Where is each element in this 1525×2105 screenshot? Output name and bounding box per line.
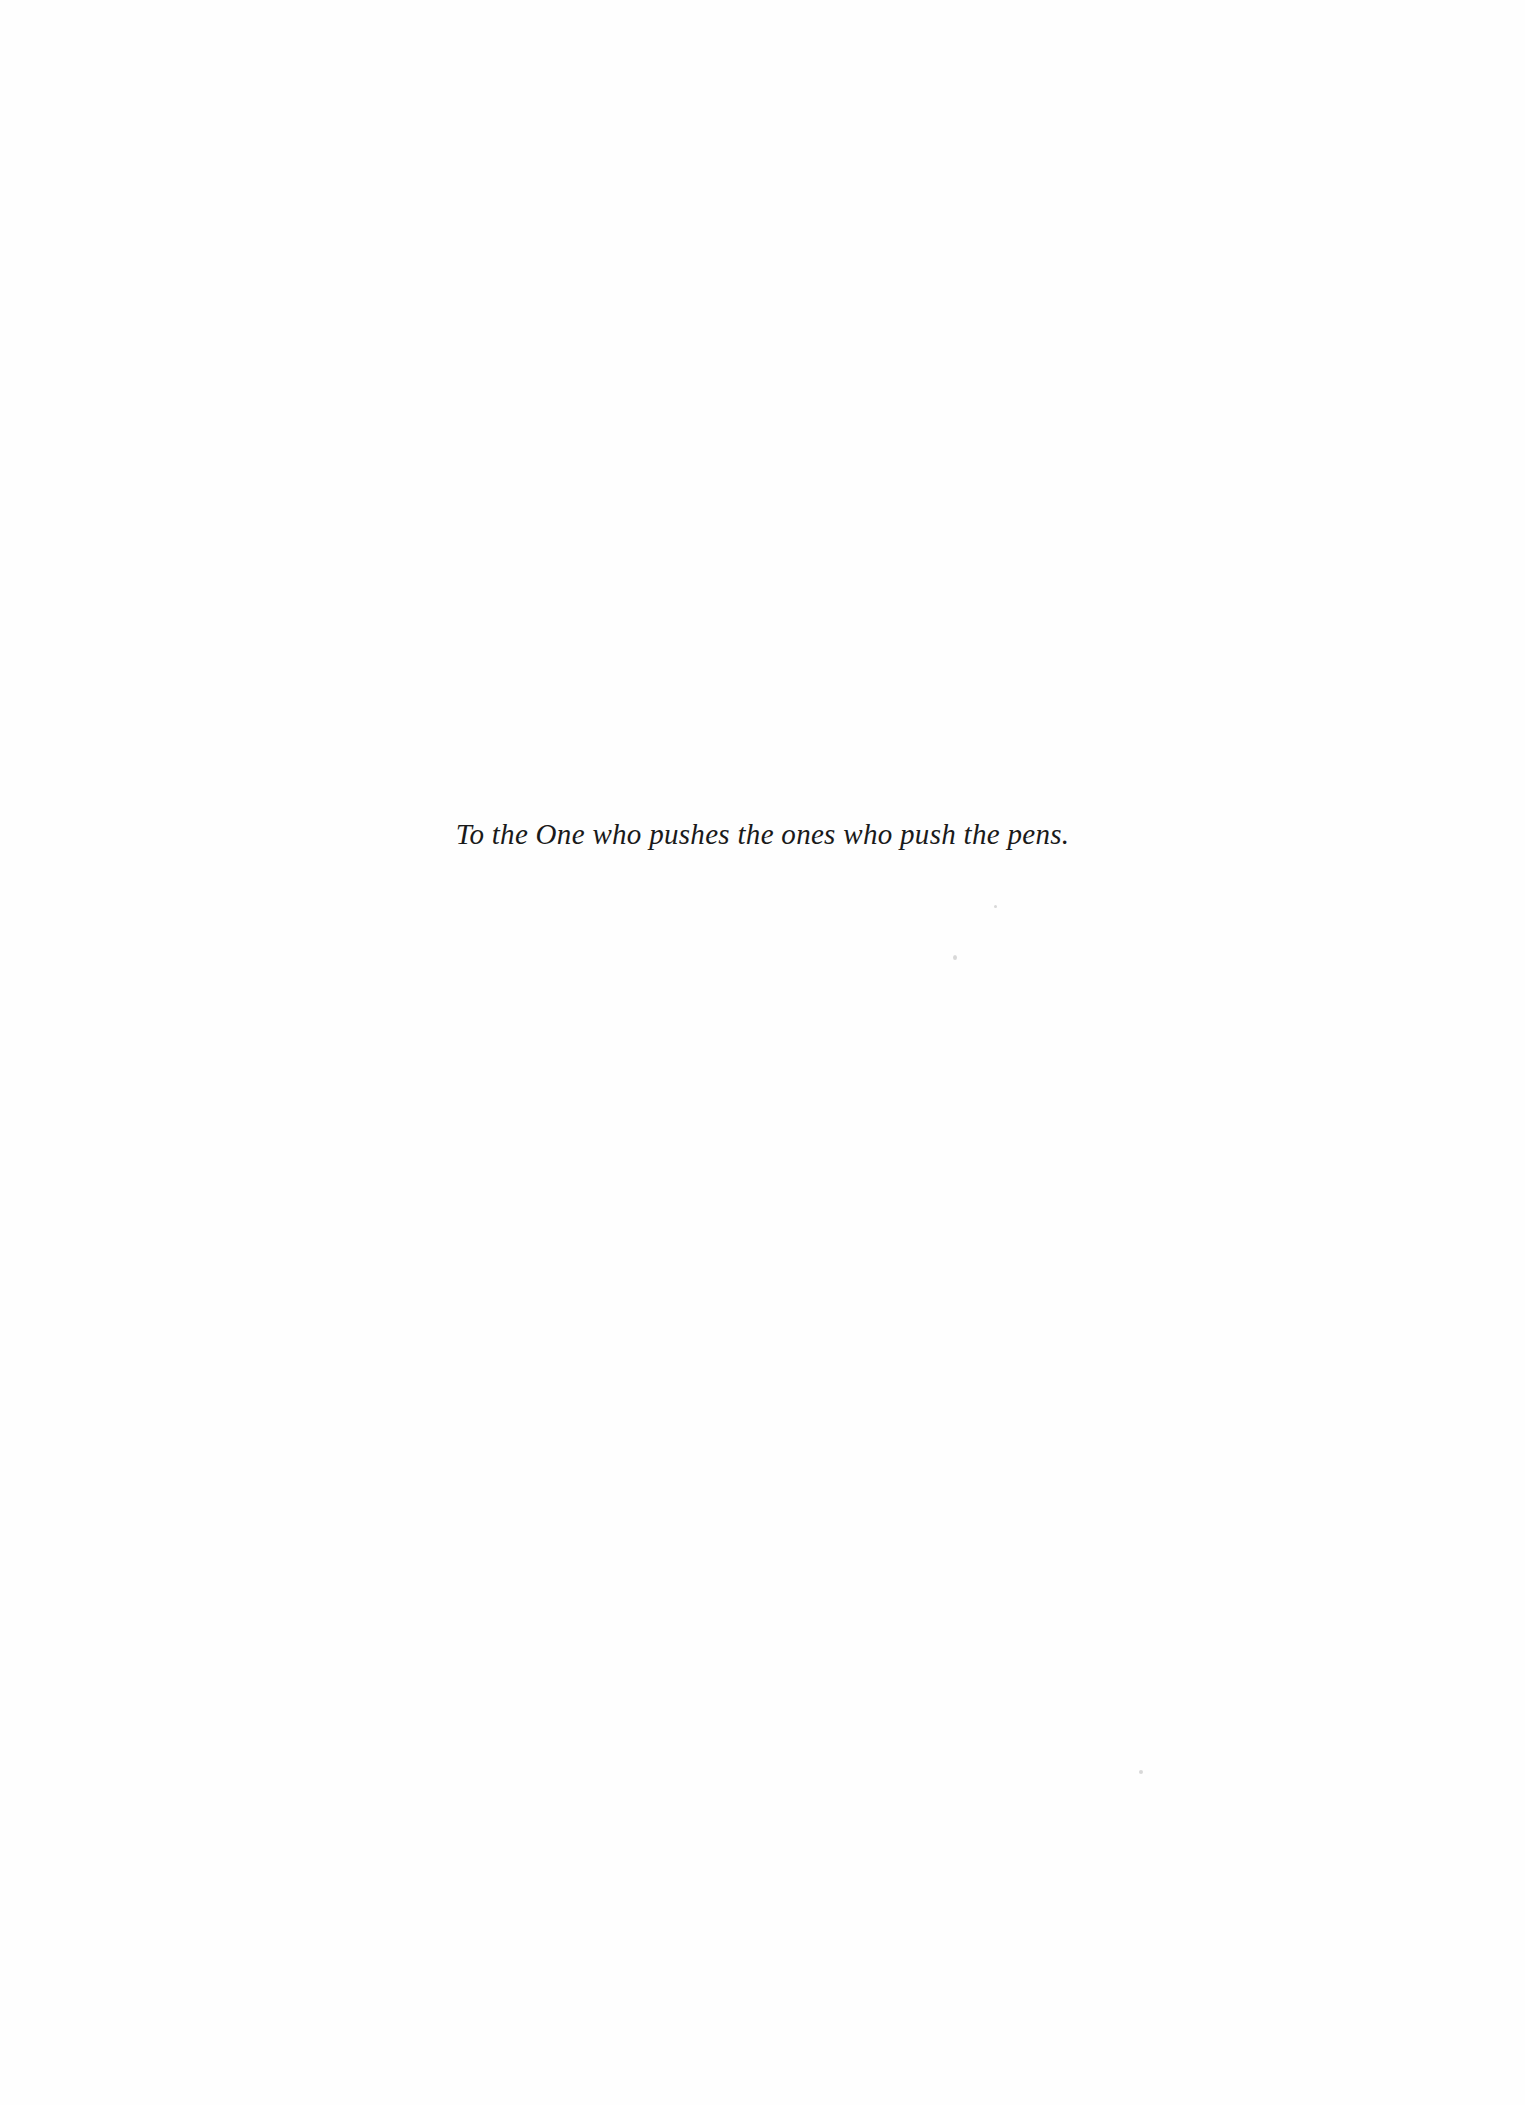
dedication-text: To the One who pushes the ones who push …	[0, 817, 1525, 852]
document-page: To the One who pushes the ones who push …	[0, 0, 1525, 2105]
scan-speck	[1139, 1770, 1143, 1774]
scan-speck	[994, 905, 997, 908]
scan-speck	[953, 955, 957, 960]
